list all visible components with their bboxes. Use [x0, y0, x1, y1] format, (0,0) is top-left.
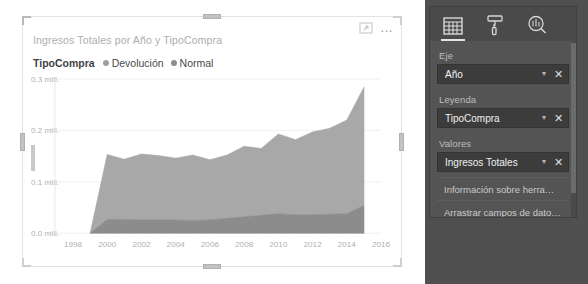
fields-pane: Eje Año ▾ ✕ Leyenda TipoCompra ▾ ✕: [429, 6, 577, 218]
x-axis-tick-label: 2006: [201, 240, 220, 249]
area-chart-svg: 0.3 mill.0.2 mill.0.1 mill.0.0 mill. 199…: [31, 75, 395, 260]
drop-row-tooltips[interactable]: Información sobre herramien…: [437, 177, 569, 200]
chart-area-series: [90, 87, 364, 233]
power-bi-screen: … Ingresos Totales por Año y TipoCompra …: [0, 0, 588, 284]
pane-scrollbar[interactable]: [571, 41, 576, 217]
drop-row-label-tooltips: Información sobre herramien…: [444, 184, 562, 195]
legend-title: TipoCompra: [33, 57, 95, 69]
field-well-value-valores: Ingresos Totales: [445, 157, 542, 168]
chevron-down-icon[interactable]: ▾: [542, 113, 546, 122]
field-well-value-leyenda: TipoCompra: [445, 113, 542, 124]
field-well-valores[interactable]: Ingresos Totales ▾ ✕: [437, 152, 569, 172]
field-well-value-eje: Año: [445, 69, 542, 80]
table-grid-icon: [442, 16, 464, 36]
remove-field-icon[interactable]: ✕: [554, 69, 563, 79]
resize-handle-bottom[interactable]: [203, 264, 221, 269]
magnifier-chart-icon: [526, 14, 548, 36]
focus-mode-icon[interactable]: [359, 21, 373, 35]
x-axis-tick-label: 2008: [235, 240, 254, 249]
x-axis-tick-label: 2012: [304, 240, 323, 249]
visualizations-pane: Eje Año ▾ ✕ Leyenda TipoCompra ▾ ✕: [425, 0, 588, 284]
visual-title: Ingresos Totales por Año y TipoCompra: [33, 34, 222, 46]
visual-header-icons: …: [359, 21, 395, 35]
report-canvas[interactable]: … Ingresos Totales por Año y TipoCompra …: [0, 0, 425, 284]
field-label-valores: Valores: [430, 133, 576, 152]
legend-item-normal[interactable]: Normal: [171, 57, 214, 69]
resize-handle-right[interactable]: [399, 133, 404, 151]
resize-handle-left[interactable]: [20, 133, 25, 151]
field-label-eje: Eje: [430, 45, 576, 64]
remove-field-icon[interactable]: ✕: [554, 113, 563, 123]
y-axis-scroll-thumb[interactable]: [31, 145, 35, 171]
fields-tab[interactable]: [440, 12, 466, 36]
pane-body: Eje Año ▾ ✕ Leyenda TipoCompra ▾ ✕: [430, 41, 576, 218]
selection-corner-bottom-left: [22, 258, 31, 267]
analytics-tab[interactable]: [524, 12, 550, 36]
x-axis-tick-label: 1998: [64, 240, 83, 249]
x-axis-tick-label: 2004: [167, 240, 186, 249]
legend-swatch-normal: [171, 60, 177, 66]
legend-item-devolucion[interactable]: Devolución: [103, 57, 164, 69]
chevron-down-icon[interactable]: ▾: [542, 157, 546, 166]
x-axis-tick-label: 2014: [338, 240, 357, 249]
field-label-leyenda: Leyenda: [430, 89, 576, 108]
legend-swatch-devolucion: [103, 60, 109, 66]
field-well-leyenda[interactable]: TipoCompra ▾ ✕: [437, 108, 569, 128]
legend-label-devolucion: Devolución: [112, 57, 164, 69]
x-axis-tick-labels: 1998200020022004200620082010201220142016: [64, 240, 391, 249]
more-options-button[interactable]: …: [379, 24, 395, 32]
x-axis-tick-label: 2000: [98, 240, 117, 249]
paint-roller-icon: [485, 14, 505, 36]
area-chart-visual[interactable]: … Ingresos Totales por Año y TipoCompra …: [22, 16, 402, 267]
drop-row-drag-fields[interactable]: Arrastrar campos de datos …: [437, 200, 569, 218]
resize-handle-top[interactable]: [203, 14, 221, 19]
x-axis-tick-label: 2002: [132, 240, 151, 249]
selection-corner-top-left: [22, 16, 31, 25]
field-well-eje[interactable]: Año ▾ ✕: [437, 64, 569, 84]
pane-tab-strip: [430, 7, 576, 41]
chart-plot-area[interactable]: 0.3 mill.0.2 mill.0.1 mill.0.0 mill. 199…: [31, 75, 395, 260]
x-axis-tick-label: 2010: [269, 240, 288, 249]
legend-label-normal: Normal: [180, 57, 214, 69]
format-tab[interactable]: [482, 12, 508, 36]
x-axis-tick-label: 2016: [372, 240, 391, 249]
area-series-normal[interactable]: [90, 87, 364, 233]
remove-field-icon[interactable]: ✕: [554, 157, 563, 167]
field-group-leyenda: Leyenda TipoCompra ▾ ✕: [430, 89, 576, 133]
pane-scrollbar-thumb[interactable]: [571, 43, 576, 193]
chart-legend[interactable]: TipoCompra Devolución Normal: [33, 57, 213, 69]
drop-row-label-drag-fields: Arrastrar campos de datos …: [444, 207, 562, 218]
field-group-valores: Valores Ingresos Totales ▾ ✕: [430, 133, 576, 177]
field-group-eje: Eje Año ▾ ✕: [430, 45, 576, 89]
chevron-down-icon[interactable]: ▾: [542, 69, 546, 78]
